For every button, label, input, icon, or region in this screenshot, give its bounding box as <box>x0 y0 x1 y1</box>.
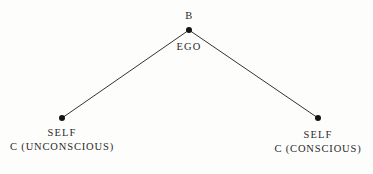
ego-node-dot <box>186 27 192 33</box>
ego-node-bottom-label: EGO <box>177 42 202 53</box>
conscious-self-label-line1: SELF <box>304 130 333 141</box>
unconscious-self-label-line1: SELF <box>48 128 77 139</box>
diagram-canvas: B EGO SELF C (UNCONSCIOUS) SELF C (CONSC… <box>0 0 373 174</box>
caption-remnant <box>0 160 373 174</box>
edge-ego-to-unconscious-self <box>62 30 189 118</box>
unconscious-self-label-line2: C (UNCONSCIOUS) <box>10 142 114 153</box>
edge-ego-to-conscious-self <box>189 30 318 118</box>
conscious-self-node-dot <box>315 115 321 121</box>
conscious-self-label-line2: C (CONSCIOUS) <box>274 144 361 155</box>
ego-node-top-label: B <box>185 11 192 22</box>
unconscious-self-node-dot <box>59 115 65 121</box>
